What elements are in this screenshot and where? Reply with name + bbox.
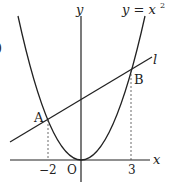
line-label: l	[153, 52, 157, 67]
curve-exponent: 2	[160, 1, 165, 10]
point-b-label: B	[134, 72, 144, 87]
point-a-label: A	[33, 110, 44, 125]
origin-label: O	[67, 163, 77, 177]
x-axis-label: x	[153, 152, 161, 167]
diagram-canvas: y y = x 2 l B A x −2 O 3 )	[0, 0, 172, 191]
y-axis-label: y	[75, 2, 84, 17]
tick-label-neg2: −2	[39, 163, 57, 177]
edge-fragment: )	[0, 40, 2, 55]
curve-label: y = x	[121, 2, 157, 17]
parabola-line-diagram: y y = x 2 l B A x −2 O 3 )	[0, 0, 172, 191]
tick-label-3: 3	[128, 163, 136, 177]
